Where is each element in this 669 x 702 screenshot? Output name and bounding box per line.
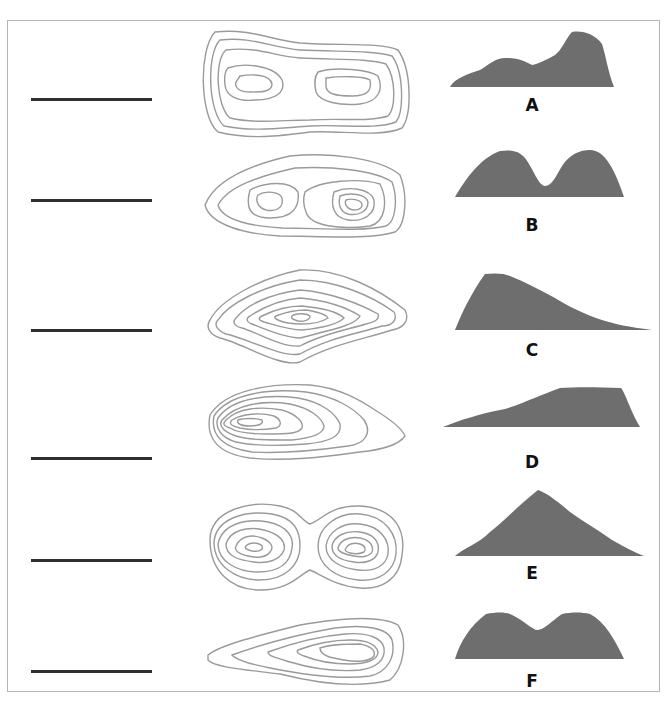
profile-e xyxy=(455,490,644,556)
profile-label-c: C xyxy=(512,340,552,360)
profile-label-a: A xyxy=(512,95,552,115)
profile-label-e: E xyxy=(512,563,552,583)
contour-map-2 xyxy=(205,155,405,237)
profile-d xyxy=(443,387,640,427)
profile-label-b: B xyxy=(512,215,552,235)
contour-map-5 xyxy=(210,504,403,590)
contour-map-3 xyxy=(208,270,407,363)
profile-f xyxy=(455,613,624,660)
contour-map-1 xyxy=(203,31,409,136)
profile-a xyxy=(450,32,614,88)
profile-label-d: D xyxy=(512,452,552,472)
contour-map-4 xyxy=(209,385,405,460)
profile-c xyxy=(455,273,652,330)
contour-map-6 xyxy=(208,619,404,685)
profile-b xyxy=(455,150,624,197)
profile-label-f: F xyxy=(512,671,552,691)
diagram-artwork xyxy=(0,0,669,702)
